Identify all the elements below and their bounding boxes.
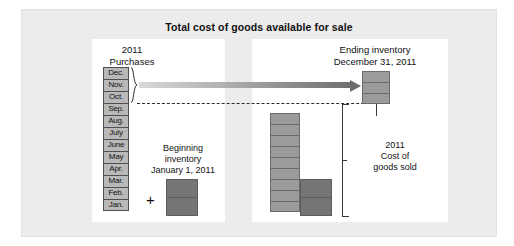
inventory-block <box>362 82 390 93</box>
beginning-inventory-block-divider <box>167 197 197 198</box>
ending-inventory-line-1: Ending inventory <box>305 44 445 56</box>
month-boxes-list: Dec. Nov. Oct. Sep. Aug. July June May A… <box>103 67 129 211</box>
month-box: May <box>103 151 129 163</box>
cogs-block <box>270 124 300 135</box>
month-box: Mar. <box>103 175 129 187</box>
purchases-year-label: 2011 <box>92 44 172 56</box>
cogs-block <box>270 168 300 179</box>
inventory-flow-diagram: Total cost of goods available for sale 2… <box>0 0 514 246</box>
month-box: Aug. <box>103 115 129 127</box>
ending-inventory-line-2: December 31, 2011 <box>305 56 445 68</box>
cogs-bracket-pointer <box>342 160 347 161</box>
ending-inventory-label: Ending inventory December 31, 2011 <box>305 44 445 68</box>
cogs-line-1: 2011 <box>352 140 438 151</box>
month-box: Nov. <box>103 79 129 91</box>
beginning-inventory-label: Beginning inventory January 1, 2011 <box>138 143 228 176</box>
cogs-block <box>270 179 300 190</box>
cogs-line-3: goods sold <box>352 162 438 173</box>
cogs-block <box>270 190 300 201</box>
cogs-purchases-stack <box>270 113 300 212</box>
purchases-to-ending-arrow-shaft <box>139 82 354 88</box>
beginning-inventory-line-3: January 1, 2011 <box>138 165 228 176</box>
month-box: June <box>103 139 129 151</box>
cogs-block <box>270 135 300 146</box>
month-box: Oct. <box>103 91 129 103</box>
month-box: Apr. <box>103 163 129 175</box>
cogs-beginning-inventory-block <box>300 179 332 216</box>
cogs-block <box>270 157 300 168</box>
month-box: Dec. <box>103 67 129 79</box>
month-box: July <box>103 127 129 139</box>
inventory-block <box>362 93 390 104</box>
ending-inventory-connector-tick <box>376 104 377 116</box>
purchases-to-ending-arrow-head <box>350 80 361 92</box>
cogs-beginning-inventory-block-divider <box>301 197 331 198</box>
cogs-line-2: Cost of <box>352 151 438 162</box>
month-box: Jan. <box>103 199 129 211</box>
month-box: Feb. <box>103 187 129 199</box>
plus-operator-symbol: + <box>146 192 155 207</box>
beginning-inventory-block <box>166 179 198 216</box>
beginning-inventory-line-2: inventory <box>138 154 228 165</box>
curly-brace-icon <box>130 67 138 103</box>
cogs-block <box>270 146 300 157</box>
dashed-divider-line <box>137 103 389 104</box>
inventory-block <box>362 71 390 82</box>
cost-of-goods-sold-label: 2011 Cost of goods sold <box>352 140 438 173</box>
month-box: Sep. <box>103 103 129 115</box>
beginning-inventory-line-1: Beginning <box>138 143 228 154</box>
ending-inventory-stack <box>362 71 390 104</box>
cogs-block <box>270 201 300 212</box>
cogs-block <box>270 113 300 124</box>
figure-title: Total cost of goods available for sale <box>22 21 496 33</box>
